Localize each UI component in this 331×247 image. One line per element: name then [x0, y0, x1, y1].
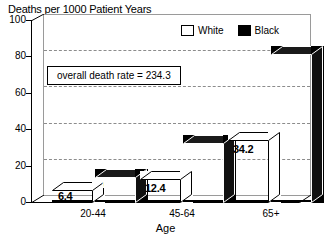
legend-label-black: Black	[255, 25, 279, 36]
bar-chart: Deaths per 1000 Patient Years 100 80 60 …	[0, 0, 331, 247]
axis-diagonal-top	[31, 14, 45, 21]
bar-front-face	[95, 200, 135, 202]
y-tick-20	[26, 166, 31, 167]
value-label-black-45-64: 32.5	[188, 144, 208, 156]
overall-death-rate-annotation: overall death rate = 234.3	[47, 66, 181, 85]
y-tick-label-40: 40	[4, 123, 26, 134]
value-label-white-20-44: 6.4	[58, 190, 72, 202]
y-tick-0	[26, 202, 31, 203]
bar-black-65plus	[271, 54, 311, 202]
legend-label-white: White	[198, 25, 224, 36]
y-tick-label-0: 0	[4, 196, 26, 207]
axis-diagonal-bottom	[31, 195, 45, 203]
bar-front-face	[228, 200, 268, 202]
y-tick-60	[26, 93, 31, 94]
legend-item-white: White	[181, 25, 224, 36]
legend-item-black: Black	[238, 25, 279, 36]
plot-backwall-top-edge	[43, 14, 311, 15]
plot-floor-front-edge	[31, 202, 299, 203]
x-tick-label-20-44: 20-44	[58, 208, 128, 219]
plot-backwall-left-edge	[43, 14, 44, 196]
value-label-black-65plus: 81.5	[276, 56, 296, 68]
y-tick-label-20: 20	[4, 160, 26, 171]
chart-legend: White Black	[181, 25, 279, 36]
bar-front-face	[271, 200, 311, 202]
x-axis-label: Age	[0, 222, 331, 234]
y-tick-label-80: 80	[4, 50, 26, 61]
x-tick-label-45-64: 45-64	[147, 208, 217, 219]
y-tick-100	[26, 20, 31, 21]
y-tick-label-60: 60	[4, 87, 26, 98]
x-tick-label-65plus: 65+	[236, 208, 306, 219]
y-tick-label-100: 100	[4, 14, 26, 25]
bar-front-face	[140, 200, 180, 202]
y-tick-80	[26, 56, 31, 57]
white-square-icon	[181, 25, 194, 36]
bar-side-face	[311, 46, 324, 203]
bar-front-face	[183, 200, 223, 202]
black-square-icon	[238, 25, 251, 36]
value-label-white-45-64: 12.4	[145, 182, 165, 194]
y-axis-line	[31, 20, 32, 202]
value-label-black-20-44: 13.9	[100, 178, 120, 190]
value-label-white-65plus: 34.2	[233, 143, 253, 155]
y-tick-40	[26, 129, 31, 130]
